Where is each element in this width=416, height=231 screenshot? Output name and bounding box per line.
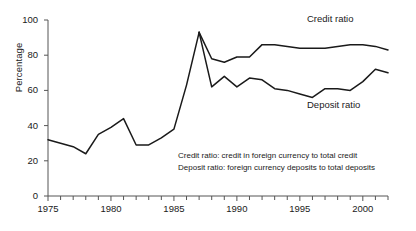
series-paths [48, 32, 388, 153]
y-axis-ticks [44, 20, 48, 196]
y-tick-label: 100 [12, 14, 38, 25]
x-tick-label: 1975 [28, 203, 68, 214]
deposit-ratio-series-label: Deposit ratio [307, 99, 360, 110]
y-axis-title: Percentage [13, 28, 24, 108]
chart-container: Percentage 020406080100 1975198019851990… [0, 0, 416, 231]
y-tick-label: 80 [12, 49, 38, 60]
x-tick-label: 1995 [280, 203, 320, 214]
x-tick-label: 2000 [343, 203, 383, 214]
footnote-credit-ratio: Credit ratio: credit in foreign currency… [178, 151, 357, 160]
series-line-combined [48, 32, 199, 153]
series-line-deposit-ratio [199, 32, 388, 97]
footnote-deposit-ratio: Deposit ratio: foreign currency deposits… [178, 163, 375, 172]
series-line-credit-ratio [199, 32, 388, 62]
x-tick-label: 1980 [91, 203, 131, 214]
x-axis-ticks [48, 196, 388, 201]
y-tick-label: 60 [12, 84, 38, 95]
y-tick-label: 40 [12, 120, 38, 131]
chart-canvas [0, 0, 416, 231]
y-tick-label: 20 [12, 155, 38, 166]
y-tick-label: 0 [12, 190, 38, 201]
x-tick-label: 1990 [217, 203, 257, 214]
credit-ratio-series-label: Credit ratio [307, 13, 353, 24]
x-tick-label: 1985 [154, 203, 194, 214]
